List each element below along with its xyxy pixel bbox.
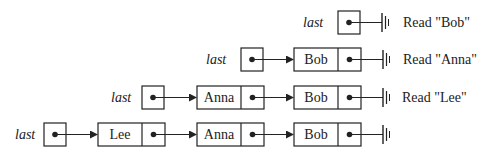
row-2: last Bob Read "Anna" [206, 48, 477, 71]
step-caption: Read "Anna" [403, 52, 477, 67]
node-value: Bob [304, 90, 327, 105]
node-value: Lee [110, 127, 131, 142]
pointer-label-last: last [303, 15, 324, 30]
row-3: last Anna Bob Read "Lee" [111, 86, 467, 109]
pointer-label-last: last [111, 90, 132, 105]
node-value: Anna [204, 127, 235, 142]
node-value: Bob [304, 52, 327, 67]
pointer-label-last: last [206, 52, 227, 67]
node-value: Anna [204, 90, 235, 105]
node-value: Bob [304, 127, 327, 142]
pointer-label-last: last [15, 127, 36, 142]
null-ground-icon [383, 50, 390, 69]
row-1: last Read "Bob" [303, 11, 470, 34]
step-caption: Read "Bob" [403, 15, 470, 30]
step-caption: Read "Lee" [402, 90, 467, 105]
null-ground-icon [383, 125, 390, 144]
null-ground-icon [383, 88, 390, 107]
null-ground-icon [382, 13, 389, 32]
linked-list-diagram: last Read "Bob" last Bob Read "Anna" [0, 0, 482, 157]
row-4: last Lee Anna Bob [15, 123, 390, 146]
